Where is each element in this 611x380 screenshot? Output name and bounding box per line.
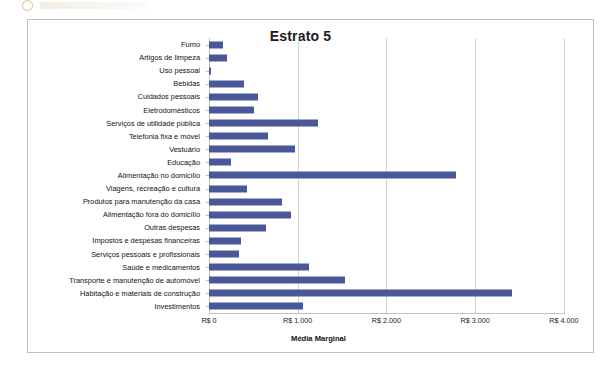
category-label: Investimentos [28, 300, 206, 313]
bar[interactable] [209, 251, 239, 258]
x-tick-label: R$ 4.000 [549, 316, 578, 325]
x-tick-label: R$ 3.000 [461, 316, 490, 325]
bar[interactable] [209, 277, 345, 284]
bar-row [209, 51, 565, 64]
x-tick-label: R$ 2.000 [372, 316, 401, 325]
x-axis-title: Média Marginal [36, 334, 601, 343]
bar-row [209, 90, 565, 103]
bar[interactable] [209, 211, 291, 218]
chart-frame: Estrato 5 FumoArtigos de limpezaUso pess… [27, 19, 594, 353]
bar-row [209, 169, 565, 182]
category-label: Vestuário [28, 143, 206, 156]
bar[interactable] [209, 172, 456, 179]
bar-row [209, 221, 565, 234]
x-axis-line [209, 313, 565, 314]
bar[interactable] [209, 224, 266, 231]
category-label: Saúde e medicamentos [28, 261, 206, 274]
scan-artifact-dot-icon [22, 0, 33, 11]
category-label: Telefonia fixa e móvel [28, 130, 206, 143]
bar[interactable] [209, 54, 227, 61]
category-label: Alimentação fora do domicílio [28, 208, 206, 221]
category-label: Eletrodomésticos [28, 103, 206, 116]
bar-row [209, 130, 565, 143]
bar[interactable] [209, 80, 244, 87]
bar[interactable] [209, 120, 318, 127]
bar-row [209, 64, 565, 77]
bar[interactable] [209, 159, 231, 166]
category-label: Transporte e manutenção de automóvel [28, 274, 206, 287]
category-label: Outras despesas [28, 221, 206, 234]
bar-row [209, 143, 565, 156]
bar[interactable] [209, 41, 223, 48]
bar[interactable] [209, 93, 258, 100]
bar-row [209, 38, 565, 51]
category-label: Serviços de utilidade pública [28, 117, 206, 130]
bar-row [209, 234, 565, 247]
scan-artifact-smudge [40, 2, 148, 9]
bar[interactable] [209, 146, 295, 153]
bar[interactable] [209, 185, 247, 192]
bar-row [209, 261, 565, 274]
x-axis-tick-labels: R$ 0R$ 1.000R$ 2.000R$ 3.000R$ 4.000 [209, 316, 589, 330]
bar[interactable] [209, 198, 282, 205]
bar-row [209, 182, 565, 195]
bar-row [209, 208, 565, 221]
bar[interactable] [209, 303, 303, 310]
category-label: Serviços pessoais e profissionais [28, 248, 206, 261]
category-label: Produtos para manutenção da casa [28, 195, 206, 208]
bar-row [209, 287, 565, 300]
bar[interactable] [209, 237, 241, 244]
category-label: Artigos de limpeza [28, 51, 206, 64]
category-label: Bebidas [28, 77, 206, 90]
bar[interactable] [209, 67, 211, 74]
category-label: Viagens, recreação e cultura [28, 182, 206, 195]
bar-row [209, 156, 565, 169]
bar-row [209, 274, 565, 287]
bar-row [209, 103, 565, 116]
bar[interactable] [209, 290, 512, 297]
x-tick-label: R$ 1.000 [283, 316, 312, 325]
category-axis-labels: FumoArtigos de limpezaUso pessoalBebidas… [28, 38, 206, 313]
bar-row [209, 117, 565, 130]
bar-row [209, 77, 565, 90]
category-label: Cuidados pessoais [28, 90, 206, 103]
bar-row [209, 300, 565, 313]
category-label: Fumo [28, 38, 206, 51]
category-label: Educação [28, 156, 206, 169]
category-label: Impostos e despesas financeiras [28, 234, 206, 247]
scan-artifacts [0, 0, 611, 14]
x-tick-label: R$ 0 [201, 316, 216, 325]
bar-row [209, 248, 565, 261]
bar-row [209, 195, 565, 208]
category-label: Alimentação no domicílio [28, 169, 206, 182]
bar[interactable] [209, 107, 254, 114]
category-label: Habitação e materiais de construção [28, 287, 206, 300]
bar[interactable] [209, 133, 268, 140]
plot-area [209, 38, 565, 313]
category-label: Uso pessoal [28, 64, 206, 77]
bar[interactable] [209, 264, 309, 271]
